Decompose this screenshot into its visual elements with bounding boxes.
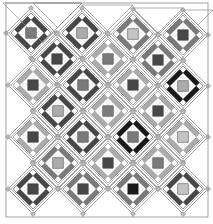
block-center-square (53, 158, 63, 168)
block-center-square (78, 132, 88, 142)
quilt-blocks (11, 13, 203, 209)
block-center-square (52, 54, 62, 64)
block-center-square (26, 28, 36, 38)
block-center-square (128, 29, 138, 39)
block-center-square (178, 30, 188, 40)
quilt-pattern (0, 0, 213, 224)
block-center-square (78, 80, 88, 90)
block-center-square (153, 158, 163, 168)
block-center-square (128, 184, 138, 194)
block-center-square (28, 80, 38, 90)
block-center-square (153, 55, 163, 65)
block-center-square (28, 184, 38, 194)
block-center-square (78, 184, 88, 194)
block-center-square (28, 132, 38, 142)
block-center-square (153, 106, 163, 116)
block-center-square (178, 81, 188, 91)
block-center-square (128, 80, 138, 90)
block-center-square (178, 184, 188, 194)
block-center-square (103, 158, 113, 168)
block-center-square (103, 54, 113, 64)
block-center-square (53, 106, 63, 116)
block-center-square (178, 132, 188, 142)
block-center-square (103, 106, 113, 116)
block-center-square (128, 132, 138, 142)
block-center-square (77, 28, 87, 38)
